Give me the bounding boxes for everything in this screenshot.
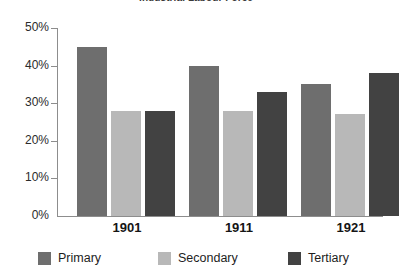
legend-label-secondary: Secondary [178,251,238,265]
y-axis-label-50-text: 50% [3,20,49,34]
legend-swatch-secondary-icon [158,252,171,265]
legend-label-tertiary: Tertiary [308,251,349,265]
x-axis-label-1901: 1901 [77,220,177,235]
bar-1901-primary[interactable] [77,47,107,216]
bar-group-1901 [77,28,177,216]
bar-1911-secondary[interactable] [223,111,253,216]
chart-legend: Primary Secondary Tertiary [0,251,392,271]
bar-group-1921 [301,28,401,216]
y-axis-label-10-text: 10% [3,170,49,184]
x-axis-line [57,216,383,217]
legend-item-tertiary[interactable]: Tertiary [288,251,349,265]
y-axis-label-40-text: 40% [3,58,49,72]
bar-1921-tertiary[interactable] [369,73,399,216]
legend-item-primary[interactable]: Primary [38,251,101,265]
x-axis-label-1921: 1921 [301,220,401,235]
bar-1911-primary[interactable] [189,66,219,216]
bar-1901-secondary[interactable] [111,111,141,216]
x-axis-label-1911: 1911 [189,220,289,235]
y-axis-label-30-text: 30% [3,95,49,109]
legend-label-primary: Primary [58,251,101,265]
bar-1921-secondary[interactable] [335,114,365,216]
plot-area [57,28,382,216]
y-axis-label-0-text: 0% [3,208,49,222]
bar-1901-tertiary[interactable] [145,111,175,216]
y-axis-label-20-text: 20% [3,133,49,147]
bar-1921-primary[interactable] [301,84,331,216]
legend-swatch-tertiary-icon [288,252,301,265]
legend-swatch-primary-icon [38,252,51,265]
chart-title: Industrial Labour Force [0,0,392,3]
legend-item-secondary[interactable]: Secondary [158,251,238,265]
bar-group-1911 [189,28,289,216]
bar-1911-tertiary[interactable] [257,92,287,216]
